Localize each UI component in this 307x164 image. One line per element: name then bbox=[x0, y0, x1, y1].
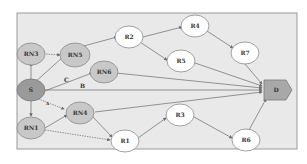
node-rn1: RN1 bbox=[17, 117, 45, 139]
node-label: RN5 bbox=[68, 51, 83, 58]
node-rn4: RN4 bbox=[66, 102, 94, 124]
node-r4: R4 bbox=[181, 15, 209, 37]
node-label: R4 bbox=[190, 22, 199, 29]
node-r1: R1 bbox=[111, 130, 139, 152]
node-label: RN1 bbox=[24, 124, 39, 131]
edge-label-c: C bbox=[64, 76, 69, 83]
node-r2: R2 bbox=[115, 26, 143, 48]
node-r7: R7 bbox=[231, 42, 259, 64]
node-label: RN3 bbox=[24, 50, 39, 57]
node-s: S bbox=[17, 79, 45, 101]
node-d: D bbox=[264, 80, 292, 100]
node-label: R3 bbox=[175, 111, 184, 118]
node-label: RN6 bbox=[97, 68, 112, 75]
node-label: S bbox=[29, 86, 33, 93]
node-r5: R5 bbox=[167, 50, 195, 72]
node-label: R7 bbox=[240, 49, 249, 56]
edge-label-b: B bbox=[80, 82, 85, 89]
routing-diagram: C B A RN3 RN5 S RN6 RN1 RN4 R2 R4 R7 R5 bbox=[0, 0, 307, 164]
node-r3: R3 bbox=[166, 104, 194, 126]
node-label: R5 bbox=[176, 57, 185, 64]
node-label: R6 bbox=[241, 136, 250, 143]
node-r6: R6 bbox=[232, 129, 260, 151]
node-rn6: RN6 bbox=[90, 61, 118, 83]
node-rn3: RN3 bbox=[17, 43, 45, 65]
node-label: R1 bbox=[120, 137, 129, 144]
node-rn5: RN5 bbox=[60, 43, 90, 67]
node-label: R2 bbox=[124, 33, 133, 40]
node-label: RN4 bbox=[73, 109, 88, 116]
node-label: D bbox=[273, 86, 278, 93]
